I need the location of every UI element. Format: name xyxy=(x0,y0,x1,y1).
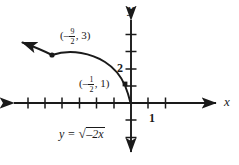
fraction-denominator-b: 2 xyxy=(88,85,94,93)
paren-close-a: ) xyxy=(87,29,91,41)
fraction-denominator-a: 2 xyxy=(69,37,75,45)
equation-lhs: y xyxy=(59,127,64,141)
minus-sign-b: – xyxy=(83,77,89,89)
point-marker-a xyxy=(49,52,54,57)
fraction-a: 92 xyxy=(69,28,75,46)
fraction-b: 12 xyxy=(88,76,94,94)
radical-expression: √–2x xyxy=(78,126,104,140)
x-axis xyxy=(14,98,216,109)
coordinate-plane-svg xyxy=(0,0,239,165)
point-label-b: (–12, 1) xyxy=(79,76,109,94)
radical-sign-icon: √ xyxy=(78,127,85,140)
x-tick-label-1: 1 xyxy=(149,112,155,124)
paren-close-b: ) xyxy=(106,77,110,89)
equation-equals: = xyxy=(67,127,75,141)
equation-label: y = √–2x xyxy=(59,126,105,140)
curve-sqrt-neg-2x xyxy=(23,43,131,104)
point-marker-b xyxy=(123,82,128,87)
point-label-a: (–92, 3) xyxy=(60,28,90,46)
fraction-numerator-b: 1 xyxy=(88,76,94,85)
y-tick-label-2: 2 xyxy=(117,62,123,74)
radicand-variable: x xyxy=(98,127,103,141)
x-axis-label: x xyxy=(224,95,230,108)
y-axis-label: y xyxy=(128,2,134,15)
fraction-numerator-a: 9 xyxy=(69,28,75,37)
radicand: –2x xyxy=(86,127,105,141)
function-curve xyxy=(23,43,131,104)
minus-sign-a: – xyxy=(64,29,70,41)
graph-figure: y x 2 1 (–92, 3) (–12, 1) y = √–2x xyxy=(0,0,239,165)
